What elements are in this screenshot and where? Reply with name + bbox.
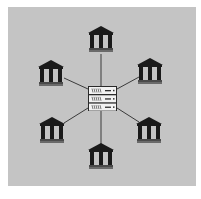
connection-line xyxy=(117,108,139,122)
server-unit xyxy=(89,104,116,111)
bank-icon xyxy=(136,117,162,143)
server-rack-icon xyxy=(88,86,117,111)
bank-icon xyxy=(137,58,163,84)
server-unit xyxy=(89,87,116,94)
bank-icon xyxy=(88,26,114,52)
connection-line xyxy=(117,77,139,89)
connection-line xyxy=(64,108,88,123)
bank-icon xyxy=(39,117,65,143)
network-diagram xyxy=(0,0,201,199)
bank-icon xyxy=(38,60,64,86)
bank-icon xyxy=(88,143,114,169)
connection-line xyxy=(64,78,88,89)
server-unit xyxy=(89,95,116,102)
